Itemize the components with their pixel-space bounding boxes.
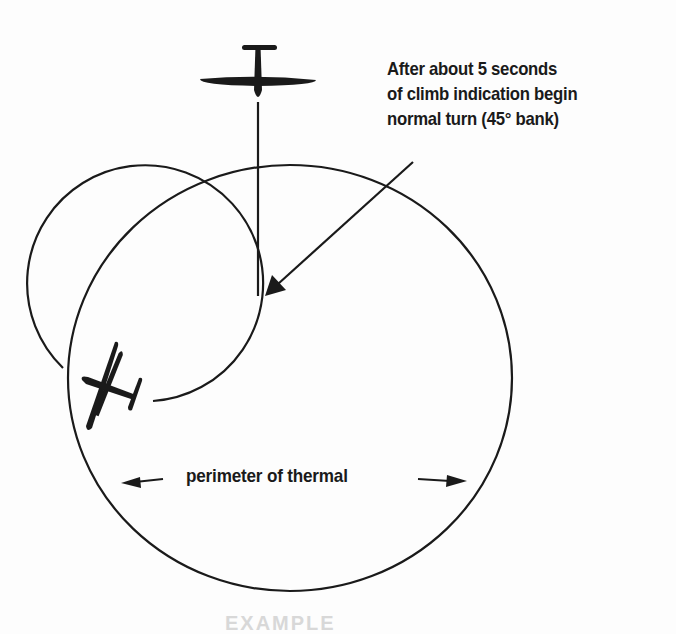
glider-circling-body: [82, 342, 143, 430]
arrowhead-left-icon: [121, 477, 141, 488]
perimeter-arrow-right: [418, 475, 467, 487]
perimeter-label: perimeter of thermal: [186, 465, 348, 487]
annotation-line-2: of climb indication begin: [387, 81, 577, 106]
figure-caption-clipped: EXAMPLE: [225, 612, 336, 634]
turn-path-arc: [27, 165, 263, 401]
pointer-arrow: [265, 162, 413, 296]
annotation-line-1: After about 5 seconds: [387, 56, 577, 81]
climb-instruction-annotation: After about 5 seconds of climb indicatio…: [387, 56, 577, 131]
thermal-perimeter-circle: [68, 165, 512, 591]
glider-entry-icon: [200, 45, 316, 97]
arrowhead-right-icon: [446, 475, 467, 487]
annotation-line-3: normal turn (45° bank): [387, 106, 577, 131]
perimeter-arrow-left: [121, 477, 163, 488]
